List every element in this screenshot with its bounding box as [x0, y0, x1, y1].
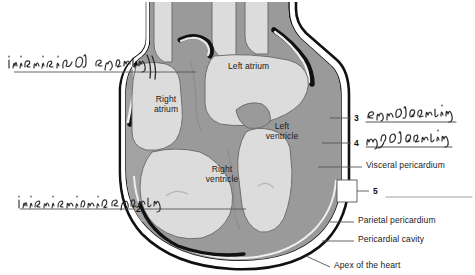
chamber-label-left-atrium: Left atrium [228, 62, 298, 72]
blank-number-2: 2 [136, 204, 141, 214]
chamber-label-left-ventricle: Left ventricle [258, 122, 306, 141]
printed-label-visceral-pericardium: Visceral pericardium [366, 161, 445, 171]
blank-number-3: 3 [354, 113, 359, 123]
blank-number-4: 4 [354, 138, 359, 148]
answer-endocardium-ink [366, 105, 456, 122]
chamber-label-right-ventricle: Right ventricle [196, 165, 248, 184]
answer-myocardium-ink [366, 130, 452, 149]
printed-label-parietal-pericardium: Parietal pericardium [358, 216, 436, 226]
chamber-label-right-atrium: Right atrium [143, 95, 189, 114]
heart-diagram-figure: Right atrium Left atrium Right ventricle… [0, 0, 475, 275]
printed-label-apex-of-the-heart: Apex of the heart [334, 261, 400, 271]
blank-number-5: 5 [373, 186, 378, 196]
printed-label-pericardial-cavity: Pericardial cavity [358, 235, 424, 245]
answer-interatrial-septum-ink [9, 55, 156, 79]
